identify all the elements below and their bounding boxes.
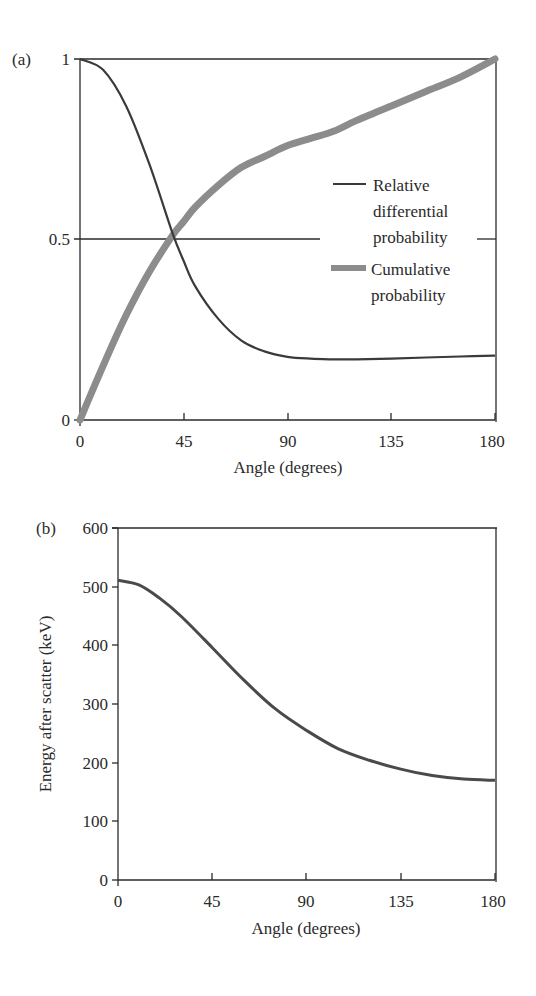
a-xtick-45: 45 (176, 432, 193, 451)
a-ytick-0.5: 0.5 (49, 230, 70, 249)
panel-b-label: (b) (36, 519, 56, 538)
b-ytick-100: 100 (83, 812, 109, 831)
a-xtick-180: 180 (479, 432, 505, 451)
panel-b: (b) 600 500 400 300 200 100 0 Energy aft… (36, 519, 506, 938)
legend-relative-label-3: probability (373, 228, 448, 247)
a-ytick-0: 0 (62, 411, 71, 430)
b-ytick-0: 0 (100, 871, 109, 890)
b-xtick-135: 135 (388, 892, 414, 911)
a-xtick-90: 90 (280, 432, 297, 451)
legend-relative-label-2: differential (373, 202, 448, 221)
b-xtick-45: 45 (204, 892, 221, 911)
b-y-axis-title: Energy after scatter (keV) (36, 616, 55, 793)
panel-a: (a) 1 0.5 0 0 45 90 135 180 Angle (degre… (12, 50, 505, 477)
energy-after-scatter-curve (118, 580, 495, 780)
legend: Relative differential probability Cumula… (331, 176, 450, 305)
a-xtick-135: 135 (378, 432, 404, 451)
b-xtick-0: 0 (114, 892, 123, 911)
b-ytick-400: 400 (83, 636, 109, 655)
a-ytick-1: 1 (62, 50, 71, 69)
b-ytick-600: 600 (83, 519, 109, 538)
legend-cumulative-label-1: Cumulative (371, 260, 450, 279)
a-x-axis-title: Angle (degrees) (233, 458, 342, 477)
b-x-axis-title: Angle (degrees) (251, 919, 360, 938)
panel-a-label: (a) (12, 50, 31, 69)
b-xtick-180: 180 (480, 892, 506, 911)
legend-cumulative-label-2: probability (371, 286, 446, 305)
b-ytick-300: 300 (83, 695, 109, 714)
a-xtick-0: 0 (76, 432, 85, 451)
figure: (a) 1 0.5 0 0 45 90 135 180 Angle (degre… (0, 0, 536, 996)
b-xtick-90: 90 (298, 892, 315, 911)
b-ytick-500: 500 (83, 578, 109, 597)
legend-relative-label-1: Relative (373, 176, 430, 195)
b-ytick-200: 200 (83, 754, 109, 773)
